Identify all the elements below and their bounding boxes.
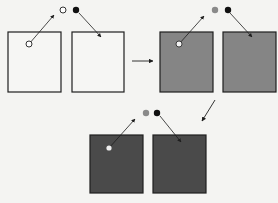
stage-3-right-box: [153, 135, 206, 193]
stage-1-left-box: [8, 32, 61, 92]
stage-3-filled-circle: [154, 110, 160, 116]
transition-arrow-down-left: [202, 100, 215, 121]
stage-2: [160, 7, 276, 92]
stage-1-filled-circle: [73, 7, 79, 13]
stage-2-filled-circle: [225, 7, 231, 13]
stage-2-left-box: [160, 32, 213, 92]
stage-1-inner-open-circle: [26, 41, 32, 47]
stage-1-right-box: [72, 32, 124, 92]
stage-3: [90, 110, 206, 193]
stage-2-inner-light-circle: [176, 41, 182, 47]
diagram-canvas: [0, 0, 278, 203]
stage-3-left-box: [90, 135, 143, 193]
stage-3-gray-circle: [143, 110, 149, 116]
stage-3-inner-light-circle: [106, 145, 111, 150]
stage-2-right-box: [223, 32, 276, 92]
stage-2-gray-circle: [212, 7, 218, 13]
stage-1: [8, 7, 124, 92]
stage-1-open-circle: [60, 7, 66, 13]
